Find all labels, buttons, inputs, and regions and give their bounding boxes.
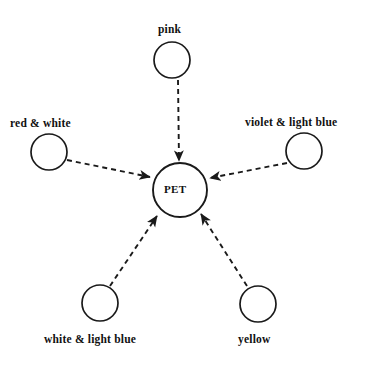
node-group: [31, 42, 322, 322]
node-label-pet: PET: [164, 184, 187, 195]
diagram-svg: [0, 0, 375, 366]
edge-red-white-pet: [67, 160, 150, 177]
node-circle-red-white[interactable]: [31, 134, 67, 170]
node-label-white-light-blue: white & light blue: [44, 334, 136, 346]
node-circle-violet-light-blue[interactable]: [286, 133, 322, 169]
node-label-violet-light-blue: violet & light blue: [245, 117, 337, 129]
node-label-red-white: red & white: [10, 118, 71, 130]
node-circle-white-light-blue[interactable]: [82, 285, 118, 321]
edge-violet-light-blue-pet: [210, 163, 287, 178]
node-label-yellow: yellow: [238, 334, 271, 346]
edge-pink-pet: [178, 80, 179, 161]
edge-white-light-blue-pet: [110, 216, 157, 286]
edge-yellow-pet: [201, 214, 247, 286]
diagram-canvas: pink red & white violet & light blue whi…: [0, 0, 375, 366]
node-circle-pink[interactable]: [154, 42, 190, 78]
node-label-pink: pink: [158, 24, 181, 36]
node-circle-yellow[interactable]: [240, 286, 276, 322]
